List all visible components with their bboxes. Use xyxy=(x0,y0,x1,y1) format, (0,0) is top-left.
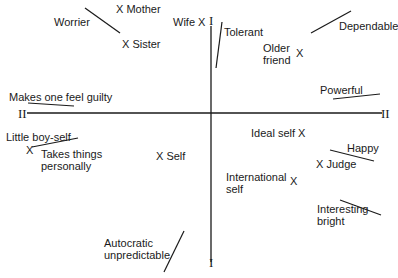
axis-label-II-right: II xyxy=(381,107,390,120)
element-self: X Self xyxy=(156,150,185,162)
construct-label-happy: Happy xyxy=(347,142,379,154)
construct-label-worrier: Worrier xyxy=(54,16,90,28)
construct-label-makes-one-feel-guilty: Makes one feel guilty xyxy=(9,91,112,103)
construct-line-worrier xyxy=(85,8,120,33)
element-wife: Wife X xyxy=(173,16,205,28)
element-older-friend-marker: X xyxy=(296,47,303,59)
element-label: International self xyxy=(226,171,287,195)
construct-label-powerful: Powerful xyxy=(320,84,363,96)
element-older-friend: Older friend xyxy=(263,42,291,66)
element-little-boy-self: Little boy-self xyxy=(6,131,71,143)
axis-label-I-top: I xyxy=(209,14,213,27)
element-label: Sister xyxy=(132,38,160,50)
construct-label-dependable: Dependable xyxy=(339,20,398,32)
element-little-boy-self-marker: X xyxy=(26,144,33,156)
element-label: Little boy-self xyxy=(6,131,71,143)
construct-label-interesting-bright: Interesting bright xyxy=(317,203,368,227)
element-label: Ideal self xyxy=(251,127,295,139)
element-label: Self xyxy=(166,150,185,162)
construct-line-tolerant xyxy=(216,22,222,68)
element-label: Mother xyxy=(126,3,160,15)
element-sister: X Sister xyxy=(122,38,161,50)
element-ideal-self: Ideal self X xyxy=(251,127,305,139)
element-label: Older friend xyxy=(263,42,291,66)
element-label: Wife xyxy=(173,16,195,28)
element-international-self: International self xyxy=(226,171,287,195)
construct-label-takes-things-personally: Takes things personally xyxy=(41,148,102,172)
element-judge: X Judge xyxy=(316,158,356,170)
construct-line-makes-one-feel-guilty xyxy=(28,103,74,106)
element-international-self-marker: X xyxy=(290,175,297,187)
axis-label-I-bottom: I xyxy=(209,256,213,269)
construct-label-tolerant: Tolerant xyxy=(224,26,263,38)
element-mother: X Mother xyxy=(116,3,161,15)
axis-label-II-left: II xyxy=(18,107,27,120)
element-label: Judge xyxy=(326,158,356,170)
construct-label-autocratic-unpredictable: Autocratic unpredictable xyxy=(104,237,170,261)
